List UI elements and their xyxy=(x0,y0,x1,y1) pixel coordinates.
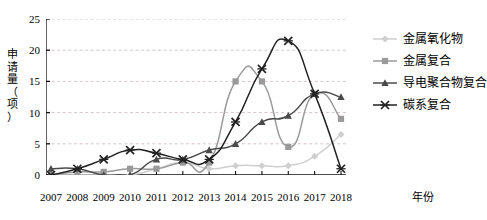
legend-item-metal-composite[interactable]: 金属复合 xyxy=(372,50,484,72)
legend-marker-triangle-icon xyxy=(372,77,398,89)
legend-label: 金属复合 xyxy=(403,55,451,68)
legend: 金属氧化物 金属复合 导电聚合物复合 碳系复合 xyxy=(372,28,484,116)
y-axis-title-char: （ xyxy=(4,86,20,99)
y-axis-tick-label: 5 xyxy=(14,139,40,150)
legend-label: 导电聚合物复合 xyxy=(403,77,487,90)
y-axis-tick-label: 15 xyxy=(14,76,40,87)
plot-svg xyxy=(46,19,346,175)
plot-area xyxy=(46,19,346,175)
y-axis-tick-label: 10 xyxy=(14,108,40,119)
legend-item-conductive-polymer-composite[interactable]: 导电聚合物复合 xyxy=(372,72,484,94)
legend-label: 碳系复合 xyxy=(403,99,451,112)
legend-marker-x-icon xyxy=(372,99,398,111)
x-axis-tick-label: 2018 xyxy=(324,191,358,203)
y-axis-tick-label: 0 xyxy=(14,170,40,181)
series-1 xyxy=(48,66,344,175)
legend-item-metal-oxide[interactable]: 金属氧化物 xyxy=(372,28,484,50)
legend-marker-diamond-icon xyxy=(372,33,398,45)
x-axis-title: 年份 xyxy=(412,191,434,203)
series-0 xyxy=(48,131,345,175)
legend-marker-square-icon xyxy=(372,55,398,67)
legend-label: 金属氧化物 xyxy=(403,33,463,46)
y-axis-tick-label: 20 xyxy=(14,45,40,56)
y-axis-title-char: 请 xyxy=(4,61,20,74)
legend-item-carbon-composite[interactable]: 碳系复合 xyxy=(372,94,484,116)
y-axis-tick-label: 25 xyxy=(14,14,40,25)
